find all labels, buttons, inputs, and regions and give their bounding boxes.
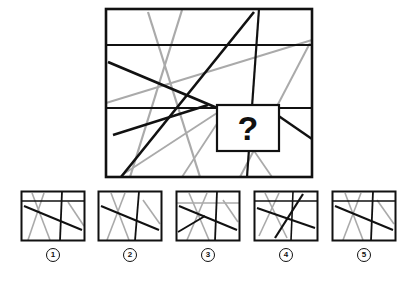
option-5-background [333, 192, 396, 241]
option-2-number: 2 [123, 248, 137, 262]
option-4-label: 4 [253, 248, 319, 262]
question-mark: ? [238, 109, 259, 147]
option-2-label: 2 [97, 248, 163, 262]
puzzle-root: ? 1 2 3 4 [0, 0, 420, 287]
option-3-number: 3 [201, 248, 215, 262]
option-2-background [99, 192, 162, 241]
stimulus-figure: ? [104, 7, 316, 181]
option-cell-2[interactable]: 2 [97, 190, 169, 270]
option-cell-3[interactable]: 3 [175, 190, 247, 270]
option-5-label: 5 [331, 248, 397, 262]
option-3-figure[interactable] [175, 190, 241, 242]
option-5-number: 5 [357, 248, 371, 262]
option-4-figure[interactable] [253, 190, 319, 242]
option-cell-1[interactable]: 1 [20, 190, 92, 270]
option-1-label: 1 [20, 248, 86, 262]
stimulus-svg: ? [104, 7, 316, 181]
option-cell-4[interactable]: 4 [253, 190, 325, 270]
option-4-number: 4 [279, 248, 293, 262]
option-cell-5[interactable]: 5 [331, 190, 403, 270]
option-3-background [177, 192, 240, 241]
option-4-background [255, 192, 318, 241]
option-5-figure[interactable] [331, 190, 397, 242]
answer-options-row: 1 2 3 4 5 [0, 190, 420, 287]
option-3-label: 3 [175, 248, 241, 262]
option-1-number: 1 [46, 248, 60, 262]
option-2-figure[interactable] [97, 190, 163, 242]
option-1-figure[interactable] [20, 190, 86, 242]
